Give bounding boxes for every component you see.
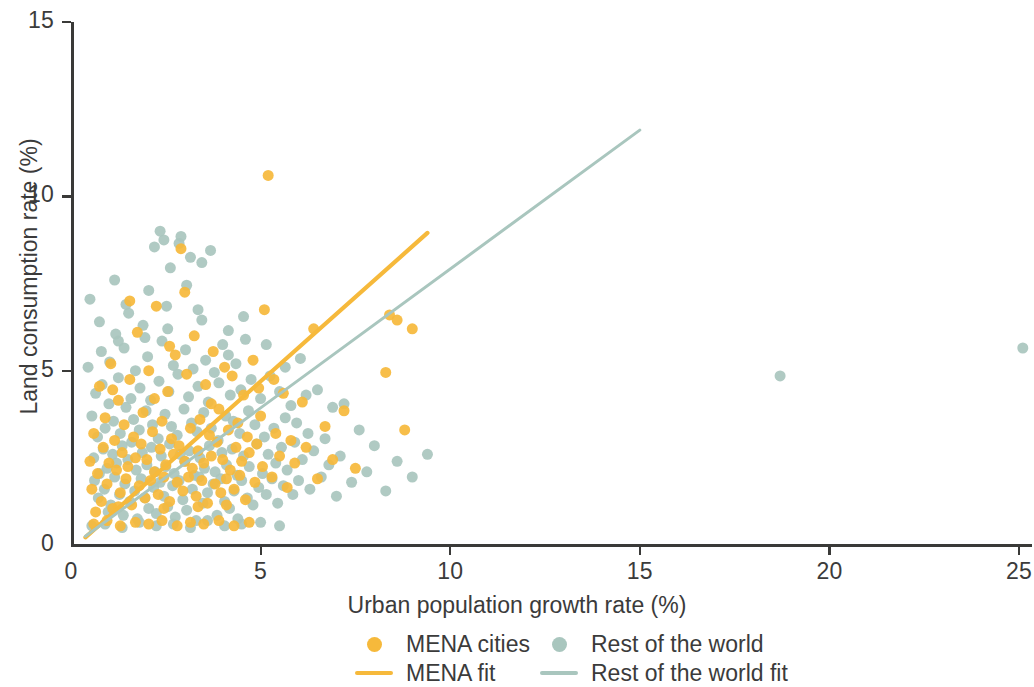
data-point-rest	[320, 433, 331, 444]
data-point-rest	[162, 501, 173, 512]
legend-item[interactable]: Rest of the world fit	[540, 659, 788, 687]
data-point-rest	[213, 377, 224, 388]
data-point-mena	[282, 482, 293, 493]
data-point-rest	[104, 356, 115, 367]
data-point-rest	[143, 503, 154, 514]
data-point-rest	[131, 465, 142, 476]
data-point-rest	[215, 473, 226, 484]
data-point-mena	[177, 485, 188, 496]
data-point-rest	[213, 435, 224, 446]
data-point-rest	[278, 480, 289, 491]
data-point-rest	[229, 485, 240, 496]
data-point-mena	[255, 410, 266, 421]
data-point-mena	[229, 484, 240, 495]
data-point-rest	[158, 234, 169, 245]
data-point-mena	[115, 487, 126, 498]
data-point-mena	[320, 421, 331, 432]
legend-line-icon	[540, 671, 578, 676]
data-point-mena	[194, 414, 205, 425]
data-point-rest	[181, 505, 192, 516]
data-point-rest	[224, 503, 235, 514]
x-tick-label-10: 10	[420, 558, 480, 585]
data-point-mena	[189, 330, 200, 341]
data-point-rest	[113, 336, 124, 347]
data-point-rest	[137, 447, 148, 458]
data-point-rest	[111, 458, 122, 469]
data-point-mena	[244, 447, 255, 458]
data-point-rest	[103, 506, 114, 517]
data-point-mena	[350, 463, 361, 474]
legend-label: MENA fit	[406, 660, 495, 687]
data-point-rest	[160, 409, 171, 420]
data-point-rest	[185, 252, 196, 263]
data-point-rest	[301, 390, 312, 401]
legend-item[interactable]: MENA cities	[355, 630, 530, 658]
data-point-rest	[175, 449, 186, 460]
x-axis-title: Urban population growth rate (%)	[0, 592, 1034, 619]
data-point-mena	[230, 442, 241, 453]
x-tick-label-15: 15	[610, 558, 670, 585]
data-point-mena	[175, 243, 186, 254]
data-point-rest	[194, 472, 205, 483]
data-point-mena	[119, 419, 130, 430]
data-point-rest	[134, 424, 145, 435]
data-point-rest	[86, 410, 97, 421]
data-point-mena	[120, 473, 131, 484]
data-point-mena	[130, 452, 141, 463]
data-point-rest	[105, 499, 116, 510]
data-point-rest	[129, 485, 140, 496]
data-point-mena	[278, 388, 289, 399]
data-point-rest	[161, 301, 172, 312]
data-point-rest	[211, 510, 222, 521]
chart-legend: MENA citiesRest of the worldMENA fitRest…	[0, 630, 1034, 687]
data-point-mena	[244, 517, 255, 528]
data-point-mena	[234, 470, 245, 481]
data-point-rest	[145, 395, 156, 406]
fit-line-mena	[85, 233, 427, 537]
data-point-mena	[289, 458, 300, 469]
data-point-rest	[339, 398, 350, 409]
data-point-rest	[327, 402, 338, 413]
data-point-rest	[100, 423, 111, 434]
data-point-rest	[287, 489, 298, 500]
data-point-rest	[196, 257, 207, 268]
data-point-mena	[183, 472, 194, 483]
data-point-rest	[108, 416, 119, 427]
data-point-rest	[274, 520, 285, 531]
data-point-rest	[167, 480, 178, 491]
data-point-rest	[268, 423, 279, 434]
data-point-mena	[115, 520, 126, 531]
data-point-rest	[117, 522, 128, 533]
legend-item[interactable]: Rest of the world	[540, 630, 764, 658]
data-point-rest	[146, 442, 157, 453]
legend-item[interactable]: MENA fit	[355, 659, 495, 687]
x-tick-15	[639, 546, 641, 555]
fit-line-rest	[85, 130, 639, 536]
data-point-rest	[169, 468, 180, 479]
data-point-rest	[308, 445, 319, 456]
data-point-rest	[142, 351, 153, 362]
mena-cities-points	[84, 170, 417, 531]
data-point-mena	[90, 506, 101, 517]
data-point-rest	[243, 405, 254, 416]
data-point-mena	[153, 489, 164, 500]
data-point-mena	[229, 520, 240, 531]
data-point-rest	[316, 472, 327, 483]
data-point-rest	[361, 466, 372, 477]
data-point-rest	[132, 513, 143, 524]
data-point-mena	[103, 458, 114, 469]
data-point-rest	[115, 428, 126, 439]
data-point-rest	[148, 482, 159, 493]
data-point-mena	[100, 412, 111, 423]
data-point-rest	[221, 459, 232, 470]
data-point-rest	[130, 365, 141, 376]
data-point-rest	[238, 451, 249, 462]
data-point-rest	[136, 473, 147, 484]
x-tick-label-20: 20	[799, 558, 859, 585]
data-point-rest	[110, 329, 121, 340]
data-point-mena	[174, 440, 185, 451]
data-point-rest	[93, 492, 104, 503]
data-point-mena	[96, 496, 107, 507]
data-point-mena	[94, 381, 105, 392]
data-point-mena	[84, 456, 95, 467]
